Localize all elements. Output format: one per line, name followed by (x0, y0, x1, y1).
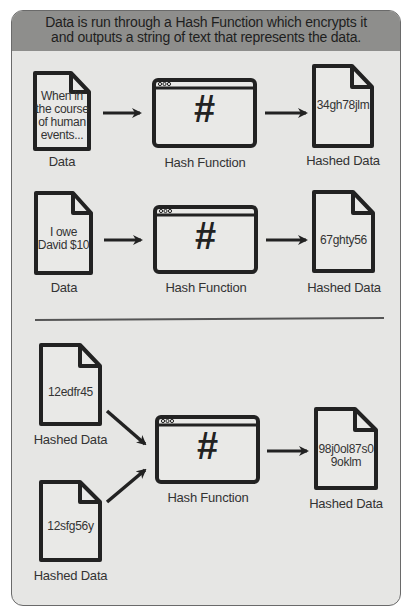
doc-text-line: 34gh78jlm (314, 99, 372, 112)
doc-text-line: David $10 (36, 239, 91, 252)
arrow-diagonal-up-icon (107, 470, 145, 502)
doc-text-line: events... (35, 129, 89, 142)
hash-function-label: Hash Function (151, 280, 261, 295)
doc-text-line: 12edfr45 (41, 386, 100, 399)
section-divider (35, 318, 384, 320)
input-document-label: Hashed Data (28, 568, 113, 583)
output-document-label: Hashed Data (298, 280, 390, 295)
input-document-label: Data (24, 280, 104, 295)
hash-symbol: # (155, 215, 256, 258)
output-document-label: Hashed Data (300, 496, 392, 511)
hash-function-label: Hash Function (150, 155, 260, 170)
doc-text-line: 9oklm (316, 456, 376, 469)
output-document-label: Hashed Data (298, 153, 388, 168)
hash-symbol: # (154, 88, 255, 131)
hash-symbol: # (157, 425, 258, 468)
hash-function-label: Hash Function (153, 490, 263, 505)
input-document-label: Data (22, 154, 102, 169)
input-document-label: Hashed Data (28, 432, 113, 447)
doc-text-line: 67ghty56 (314, 234, 373, 247)
doc-text-line: 12sfg56y (41, 520, 100, 533)
document-icon (314, 192, 373, 271)
